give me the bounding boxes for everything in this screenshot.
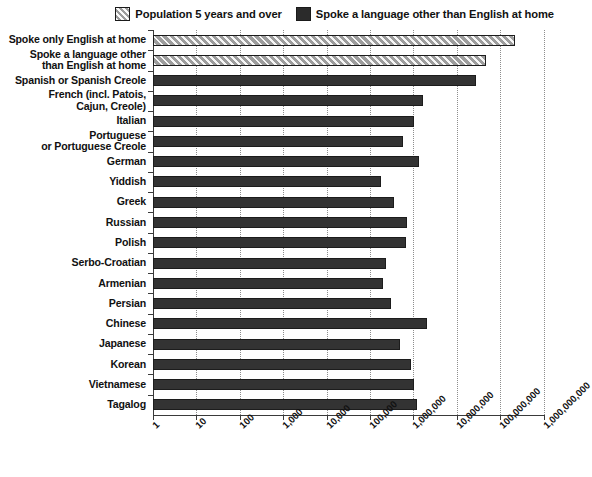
category-label: Russian xyxy=(0,217,146,229)
y-tick-mark xyxy=(148,71,153,72)
legend-item-other-language: Spoke a language other than English at h… xyxy=(296,7,554,21)
bar-greek xyxy=(153,197,394,208)
y-tick-mark xyxy=(148,354,153,355)
y-tick-mark xyxy=(148,172,153,173)
category-label-line: Greek xyxy=(0,196,146,208)
bar-portuguese-or-portuguese-creole xyxy=(153,136,403,147)
category-label: Yiddish xyxy=(0,176,146,188)
bar-korean xyxy=(153,359,411,370)
category-label-line: Tagalog xyxy=(0,399,146,411)
gridline xyxy=(500,30,502,415)
y-tick-mark xyxy=(148,293,153,294)
bar-chinese xyxy=(153,318,427,329)
category-label-line: Vietnamese xyxy=(0,379,146,391)
category-label-line: Yiddish xyxy=(0,176,146,188)
legend-swatch-solid-icon xyxy=(296,7,311,21)
category-label-line: or Portuguese Creole xyxy=(0,141,146,153)
category-label-line: Armenian xyxy=(0,278,146,290)
category-label: Spanish or Spanish Creole xyxy=(0,75,146,87)
bar-japanese xyxy=(153,339,400,350)
legend-label-other-language: Spoke a language other than English at h… xyxy=(316,8,554,20)
plot-area xyxy=(153,30,544,415)
y-tick-mark xyxy=(148,314,153,315)
y-tick-mark xyxy=(148,30,153,31)
category-label-line: Korean xyxy=(0,359,146,371)
y-tick-mark xyxy=(148,152,153,153)
bar-spoke-only-english-at-home xyxy=(153,35,515,46)
y-tick-mark xyxy=(148,50,153,51)
category-label-line: Spoke only English at home xyxy=(0,34,146,46)
legend-swatch-hatched-icon xyxy=(115,7,130,21)
category-label-line: Italian xyxy=(0,115,146,127)
y-tick-mark xyxy=(148,91,153,92)
y-tick-mark xyxy=(148,212,153,213)
category-label: Vietnamese xyxy=(0,379,146,391)
category-label-line: Russian xyxy=(0,217,146,229)
category-label: Spoke only English at home xyxy=(0,34,146,46)
category-label: Portugueseor Portuguese Creole xyxy=(0,130,146,153)
category-label: Greek xyxy=(0,196,146,208)
category-label: German xyxy=(0,156,146,168)
y-tick-mark xyxy=(148,374,153,375)
x-axis-line xyxy=(153,415,545,416)
bar-german xyxy=(153,156,419,167)
bar-polish xyxy=(153,237,406,248)
category-label: Tagalog xyxy=(0,399,146,411)
category-label: Armenian xyxy=(0,278,146,290)
category-label-line: Serbo-Croatian xyxy=(0,257,146,269)
category-label-line: German xyxy=(0,156,146,168)
category-label-line: than English at home xyxy=(0,60,146,72)
category-label: Persian xyxy=(0,298,146,310)
category-label-line: Spanish or Spanish Creole xyxy=(0,75,146,87)
category-label-line: Chinese xyxy=(0,318,146,330)
category-label: Italian xyxy=(0,115,146,127)
category-label: Korean xyxy=(0,359,146,371)
category-label-line: Persian xyxy=(0,298,146,310)
y-tick-mark xyxy=(148,192,153,193)
y-tick-mark xyxy=(148,334,153,335)
category-label: Serbo-Croatian xyxy=(0,257,146,269)
category-label-line: Polish xyxy=(0,237,146,249)
category-label: Japanese xyxy=(0,338,146,350)
category-label: Polish xyxy=(0,237,146,249)
bar-serbo-croatian xyxy=(153,258,386,269)
x-tick-label: 1 xyxy=(150,419,162,431)
category-label-line: Cajun, Creole) xyxy=(0,101,146,113)
legend-label-population: Population 5 years and over xyxy=(135,8,282,20)
bar-french-incl-patois-cajun-creole xyxy=(153,95,423,106)
gridline xyxy=(457,30,459,415)
category-label: Spoke a language otherthan English at ho… xyxy=(0,49,146,72)
chart-legend: Population 5 years and over Spoke a lang… xyxy=(0,4,562,24)
bar-armenian xyxy=(153,278,383,289)
y-tick-mark xyxy=(148,111,153,112)
bar-spoke-a-language-other-than-english-at-home xyxy=(153,55,486,66)
y-tick-mark xyxy=(148,395,153,396)
category-label-line: Japanese xyxy=(0,338,146,350)
bar-tagalog xyxy=(153,399,417,410)
bar-yiddish xyxy=(153,176,381,187)
gridline xyxy=(544,30,546,415)
bar-spanish-or-spanish-creole xyxy=(153,75,476,86)
y-tick-mark xyxy=(148,253,153,254)
legend-item-population: Population 5 years and over xyxy=(115,7,282,21)
y-tick-mark xyxy=(148,273,153,274)
bar-russian xyxy=(153,217,407,228)
gridline xyxy=(413,30,415,415)
bar-persian xyxy=(153,298,391,309)
y-tick-mark xyxy=(148,233,153,234)
x-tick-label: 1,000,000,000 xyxy=(541,380,592,431)
bar-italian xyxy=(153,116,414,127)
category-label: French (incl. Patois,Cajun, Creole) xyxy=(0,89,146,112)
y-tick-mark xyxy=(148,131,153,132)
category-label: Chinese xyxy=(0,318,146,330)
bar-vietnamese xyxy=(153,379,414,390)
